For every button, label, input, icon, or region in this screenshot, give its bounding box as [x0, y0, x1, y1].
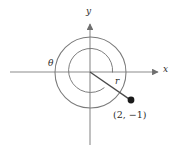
radius-label: r [115, 77, 119, 86]
radius-segment [90, 72, 130, 100]
x-axis-label: x [163, 65, 168, 74]
math-figure-unit-circle: x y θ r (2, −1) [0, 0, 175, 153]
theta-angle-label: θ [48, 59, 53, 68]
theta-arc [69, 48, 113, 92]
figure-canvas [0, 0, 175, 153]
plotted-point-dot [128, 97, 135, 104]
y-axis-label: y [86, 7, 91, 16]
point-coordinates-label: (2, −1) [113, 110, 147, 120]
